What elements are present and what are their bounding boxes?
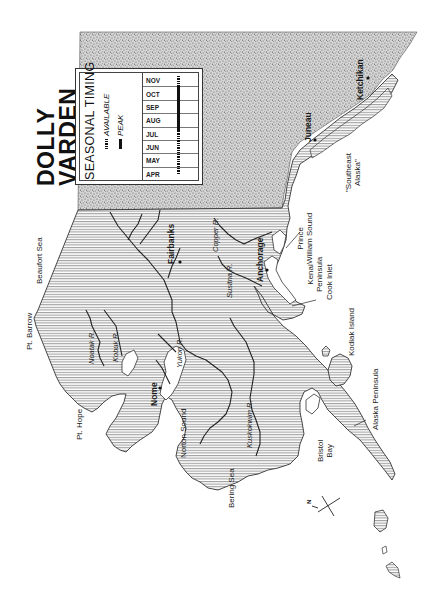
month-row-nov: NOV (143, 73, 198, 86)
label-anchorage: Anchorage (256, 238, 265, 282)
label-kuskokwim-river: Kuskokwim R. (246, 400, 254, 448)
label-southeast-line-1: "Southeast (344, 153, 353, 192)
month-row-oct: OCT (143, 86, 198, 99)
month-row-aug: AUG (143, 113, 198, 126)
month-label: NOV (146, 76, 160, 83)
seasonal-timing-legend: SEASONAL TIMING AVAILABLE PEAK NOV OCT (75, 68, 203, 185)
legend-heading: SEASONAL TIMING (83, 62, 97, 180)
compass-north-label: N (306, 500, 312, 504)
label-bering-sea: Bering Sea (228, 468, 236, 508)
label-pt-hope: Pt. Hope (76, 409, 84, 440)
month-label: OCT (146, 90, 160, 97)
label-susitna-river: Susitna R. (226, 263, 234, 298)
label-yukon-river: Yukon R. (176, 337, 184, 368)
map-title: DOLLY VARDEN (36, 88, 80, 186)
label-kenai-line-2: Peninsula (315, 257, 324, 292)
aleutian-island-2 (386, 562, 400, 578)
label-noatak-river: Noatak R. (88, 331, 96, 364)
ketchikan-dot (366, 76, 369, 79)
dotted-swatch-icon (105, 139, 108, 149)
label-pws-line-1: Prince (296, 213, 305, 264)
month-row-may: MAY (143, 153, 198, 166)
legend-key-available: AVAILABLE (102, 94, 111, 149)
label-juneau: Juneau (304, 112, 313, 142)
afognak-island (322, 346, 330, 356)
label-cook-inlet: Cook Inlet (326, 264, 334, 300)
month-row-jul: JUL (143, 127, 198, 140)
label-southeast-alaska: "Southeast Alaska" (344, 153, 362, 192)
kodiak-island (328, 354, 352, 386)
label-kobuk-river: Kobuk R. (112, 331, 120, 362)
anchorage-dot (265, 268, 268, 271)
label-pt-barrow: Pt. Barrow (26, 313, 34, 350)
solid-swatch-icon (119, 139, 122, 149)
label-kodiak-island: Kodiak Island (348, 308, 356, 356)
month-label: MAY (146, 157, 160, 164)
legend-key-available-label: AVAILABLE (102, 94, 111, 136)
label-copper-river: Copper R. (212, 218, 220, 252)
month-label: JUN (146, 144, 159, 151)
label-kenai-line-1: Kenai (306, 257, 315, 292)
label-southeast-line-2: Alaska" (353, 153, 362, 192)
label-kenai-peninsula: Kenai Peninsula (306, 257, 324, 292)
fairbanks-dot (178, 260, 181, 263)
label-beaufort-sea: Beaufort Sea (36, 237, 44, 284)
label-norton-sound: Norton Sound (180, 409, 188, 458)
label-bristol-bay: Bristol Bay (316, 440, 334, 462)
legend-key-peak: PEAK (116, 115, 125, 149)
alaska-map: DOLLY VARDEN SEASONAL TIMING AVAILABLE P… (0, 0, 439, 591)
label-bristol-bay-line-2: Bay (325, 440, 334, 462)
compass-rose (312, 496, 340, 516)
month-label: SEP (146, 103, 159, 110)
bristol-bay-water (306, 394, 320, 414)
month-label: JUL (146, 130, 158, 137)
juneau-dot (313, 138, 316, 141)
month-row-sep: SEP (143, 100, 198, 113)
label-bristol-bay-line-1: Bristol (316, 440, 325, 462)
month-column: NOV OCT SEP AUG JUL JUN MAY (142, 73, 198, 180)
label-nome: Nome (150, 382, 159, 406)
legend-frame: SEASONAL TIMING AVAILABLE PEAK NOV OCT (79, 72, 199, 181)
peninsula-island (374, 510, 388, 532)
legend-heading-area: SEASONAL TIMING AVAILABLE PEAK (80, 73, 142, 180)
month-label: APR (146, 170, 160, 177)
month-label: AUG (146, 117, 160, 124)
aleutian-island-1 (382, 546, 387, 554)
peak-bar (177, 86, 180, 132)
label-alaska-peninsula: Alaska Peninsula (372, 369, 380, 430)
month-row-apr: APR (143, 167, 198, 180)
label-fairbanks: Fairbanks (167, 224, 176, 264)
month-row-jun: JUN (143, 140, 198, 153)
legend-key-peak-label: PEAK (116, 115, 125, 136)
label-ketchikan: Ketchikan (356, 59, 365, 100)
